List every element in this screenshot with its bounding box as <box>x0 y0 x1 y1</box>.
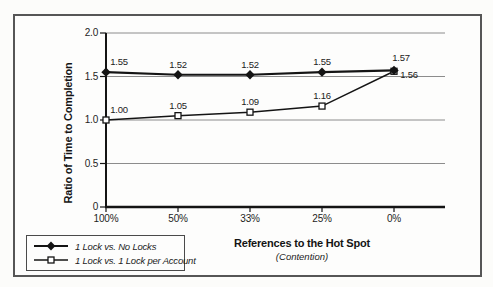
data-label: 1.52 <box>230 59 270 70</box>
y-tick-label: 1.5 <box>66 71 98 82</box>
x-axis-title-block: References to the Hot Spot (Contention) <box>192 237 412 262</box>
plot-area: 1.551.521.521.551.571.001.051.091.161.56… <box>106 33 445 207</box>
y-tick-label: 2.0 <box>66 27 98 38</box>
data-label: 1.16 <box>302 90 342 101</box>
legend-label: 1 Lock vs. No Locks <box>75 241 156 252</box>
legend: 1 Lock vs. No Locks1 Lock vs. 1 Lock per… <box>26 235 185 271</box>
data-label: 1.00 <box>99 104 139 115</box>
data-label: 1.05 <box>158 100 198 111</box>
x-axis-subtitle: (Contention) <box>192 251 412 262</box>
square-marker <box>247 109 253 115</box>
y-axis-title: Ratio of Time to Completion <box>62 62 74 203</box>
data-label: 1.57 <box>381 52 421 63</box>
square-marker <box>175 113 181 119</box>
x-tick-label: 100% <box>82 213 130 224</box>
square-marker <box>103 117 109 123</box>
y-tick-label: 1.0 <box>66 114 98 125</box>
diamond-marker <box>317 67 326 76</box>
legend-label: 1 Lock vs. 1 Lock per Account <box>75 255 196 266</box>
legend-item: 1 Lock vs. No Locks <box>34 239 184 253</box>
data-label: 1.52 <box>158 59 198 70</box>
data-label: 1.09 <box>230 96 270 107</box>
x-tick-label: 25% <box>298 213 346 224</box>
open-square-legend-marker <box>34 255 68 265</box>
x-tick-label: 33% <box>226 213 274 224</box>
data-label: 1.55 <box>302 56 342 67</box>
data-label: 1.55 <box>99 56 139 67</box>
square-marker <box>319 103 325 109</box>
x-axis-title: References to the Hot Spot <box>192 237 412 249</box>
y-tick-label: 0.5 <box>66 158 98 169</box>
diamond-marker <box>245 70 254 79</box>
x-tick-label: 0% <box>370 213 418 224</box>
diamond-marker <box>173 70 182 79</box>
figure-canvas: Ratio of Time to Completion 1.551.521.52… <box>0 0 493 287</box>
legend-item: 1 Lock vs. 1 Lock per Account <box>34 253 184 267</box>
x-tick-label: 50% <box>154 213 202 224</box>
filled-diamond-legend-marker <box>34 241 68 251</box>
y-tick-label: 0 <box>66 201 98 212</box>
data-label: 1.56 <box>389 69 429 80</box>
